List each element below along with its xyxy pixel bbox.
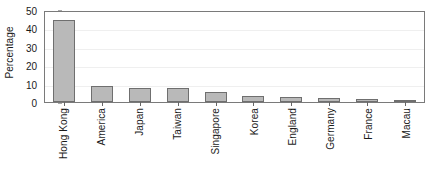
x-axis-tick-label: England [286,108,297,145]
plot-inner [45,12,424,102]
x-axis-tick-label: Taiwan [172,108,183,140]
bar-series [45,12,424,102]
x-axis-tick-labels: Hong KongAmericaJapanTaiwanSingaporeKore… [44,106,425,174]
bar-slot [45,12,83,102]
bar-slot [348,12,386,102]
x-axis-tick-label: America [96,108,107,145]
y-axis-tick-label: 40 [26,24,37,35]
bar-slot [386,12,424,102]
y-axis-tick-label: 50 [26,6,37,17]
x-axis-tick-label: Germany [324,108,335,150]
x-axis-label-slot: England [273,106,311,174]
x-axis-label-slot: Singapore [196,106,234,174]
bar[interactable] [167,88,189,102]
x-axis-label-slot: Korea [234,106,272,174]
bar-slot [197,12,235,102]
y-axis-tick-label: 10 [26,79,37,90]
bar-chart-figure: Percentage 01020304050 Hong KongAmericaJ… [0,0,447,175]
bar-slot [272,12,310,102]
bar[interactable] [53,20,75,102]
x-axis-tick-label: Korea [248,108,259,135]
bar-slot [235,12,273,102]
y-axis-title-text: Percentage [4,26,15,78]
bar-slot [121,12,159,102]
x-axis-label-slot: America [82,106,120,174]
x-axis-label-slot: Hong Kong [44,106,82,174]
x-axis-label-slot: Japan [120,106,158,174]
y-axis-tick-labels: 01020304050 [18,11,40,103]
y-axis-tick-label: 0 [31,98,37,109]
x-axis-tick-label: Hong Kong [58,108,69,159]
x-axis-label-slot: Taiwan [158,106,196,174]
bar-slot [159,12,197,102]
x-axis-tick-label: Japan [134,108,145,136]
y-axis-title: Percentage [0,0,18,104]
x-axis-tick-label: Macau [400,108,411,139]
bar[interactable] [91,86,113,102]
bar[interactable] [129,88,151,102]
bar-slot [310,12,348,102]
y-axis-tick-label: 20 [26,61,37,72]
bar[interactable] [205,92,227,102]
x-axis-label-slot: Germany [311,106,349,174]
y-axis-tick-label: 30 [26,42,37,53]
x-axis-label-slot: France [349,106,387,174]
x-axis-tick-label: France [362,108,373,140]
plot-area [44,11,425,103]
x-axis-label-slot: Macau [387,106,425,174]
bar-slot [83,12,121,102]
x-axis-tick-label: Singapore [210,108,221,155]
